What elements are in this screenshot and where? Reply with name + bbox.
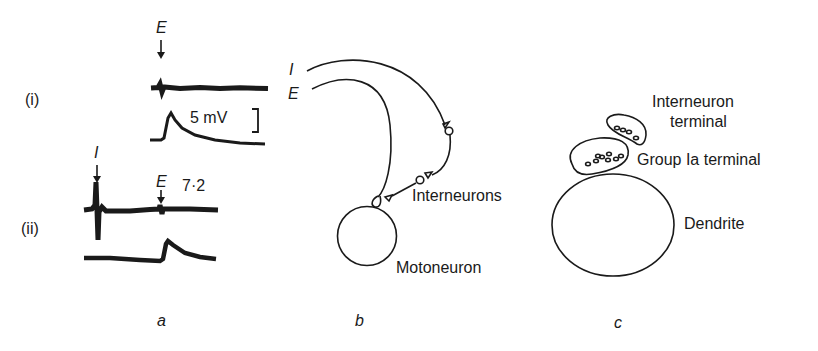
row-i-label: (i)	[25, 92, 39, 108]
panel-a-label: a	[157, 313, 166, 329]
interneuron-terminal-label-line2: terminal	[670, 114, 727, 130]
interval-label: 7·2	[182, 178, 205, 194]
vesicle-icon	[627, 130, 632, 133]
row-ii-label: (ii)	[21, 221, 39, 237]
vesicle-icon	[619, 154, 624, 157]
excitatory-fiber	[312, 80, 391, 197]
interneuron-terminal-label-line1: Interneuron	[652, 94, 734, 110]
synapse-terminal-icon	[385, 195, 392, 201]
scale-label: 5 mV	[190, 110, 227, 126]
vesicle-icon	[607, 152, 612, 155]
epsp-trace-ii	[84, 241, 216, 261]
vesicle-icon	[621, 128, 626, 131]
extracellular-trace-i	[151, 84, 268, 92]
vesicle-icon	[596, 154, 601, 157]
excitatory-terminal-bulb	[372, 196, 380, 207]
inhibitory-fiber	[307, 60, 445, 125]
input-i-label: I	[289, 62, 293, 78]
interneuron-1-axon	[432, 135, 450, 175]
motoneuron-soma	[338, 207, 397, 266]
figure-drawing	[0, 0, 818, 351]
panel-b-circuit	[307, 60, 453, 265]
interneuron-2-soma	[416, 176, 424, 184]
vesicle-icon	[586, 162, 591, 165]
stimulus-e-label-i: E	[156, 20, 167, 36]
dendrite-label: Dendrite	[684, 216, 744, 232]
vesicle-icon	[614, 157, 619, 160]
motoneuron-label: Motoneuron	[396, 260, 481, 276]
input-e-label: E	[288, 86, 299, 102]
panel-c-synapse	[552, 114, 674, 276]
vesicle-icon	[634, 136, 639, 139]
panel-b-label: b	[355, 313, 364, 329]
vesicle-icon	[615, 126, 620, 129]
stimulus-e-label-ii: E	[156, 174, 167, 190]
arrowhead-icon	[157, 197, 165, 204]
panel-c-label: c	[614, 315, 622, 331]
arrowhead-icon	[157, 52, 165, 59]
stimulus-i-label: I	[94, 145, 98, 161]
vesicle-icon	[594, 159, 599, 162]
panel-a-row-i-traces	[150, 40, 268, 144]
interneuron-terminal-shape	[607, 114, 646, 144]
synapse-terminal-icon	[425, 172, 432, 178]
vesicle-icon	[606, 158, 611, 161]
group-ia-terminal-label: Group Ia terminal	[637, 152, 761, 168]
interneurons-label: Interneurons	[412, 188, 502, 204]
dendrite-shape	[552, 174, 674, 276]
interneuron-1-soma	[445, 127, 453, 135]
scale-bracket	[252, 109, 258, 132]
